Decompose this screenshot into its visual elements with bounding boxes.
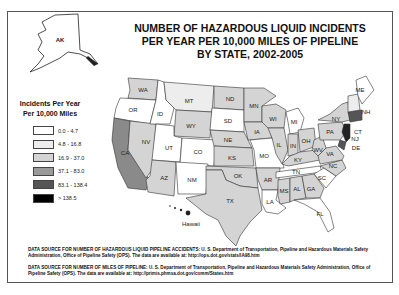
state-label-de: DE [352, 145, 360, 151]
state-label-az: AZ [160, 175, 168, 181]
state-label-fl: FL [316, 211, 324, 217]
state-label-oh: OH [302, 138, 311, 144]
state-label-or: OR [129, 107, 139, 113]
state-fl[interactable] [294, 198, 334, 232]
state-label-ga: GA [307, 186, 316, 192]
hawaii-label: Hawaii [182, 221, 200, 227]
legend-swatch [33, 126, 54, 135]
legend-swatch [33, 153, 54, 162]
legend-item: 0.0 - 4.7 [33, 124, 87, 138]
source-incidents: DATA SOURCE FOR NUMBER OF HAZARDOUS LIQU… [28, 247, 378, 259]
state-label-il: IL [276, 142, 282, 148]
state-label-mn: MN [249, 103, 258, 109]
source-miles: DATA SOURCE FOR NUMBER OF MILES OF PIPEL… [28, 265, 378, 277]
state-label-wv: WV [313, 147, 323, 153]
legend-title-line-2: Per 10,000 Miles [10, 109, 90, 119]
alaska-inset: AK [30, 14, 98, 72]
legend-item: > 138.5 [33, 192, 87, 206]
legend-label: 37.1 - 83.0 [58, 168, 84, 174]
state-label-ca: CA [121, 150, 129, 156]
state-label-mi: MI [291, 119, 298, 125]
state-label-sc: SC [318, 175, 327, 181]
state-label-nd: ND [226, 96, 235, 102]
legend-swatch [33, 180, 54, 189]
state-label-co: CO [194, 149, 203, 155]
state-label-ar: AR [264, 177, 273, 183]
state-nj[interactable] [342, 124, 350, 142]
legend-label: 0.0 - 4.7 [58, 128, 78, 134]
state-label-nv: NV [142, 139, 150, 145]
state-label-ut: UT [165, 145, 173, 151]
legend-label: 4.8 - 16.8 [58, 141, 81, 147]
state-label-ak: AK [56, 37, 65, 43]
legend-label: 16.9 - 37.0 [58, 155, 84, 161]
state-label-ks: KS [228, 155, 236, 161]
state-label-ia: IA [254, 129, 260, 135]
state-label-me: ME [356, 87, 365, 93]
legend-label: 83.1 - 138.4 [58, 182, 87, 188]
state-label-tn: TN [292, 169, 300, 175]
title-line-3: BY STATE, 2002-2005 [110, 48, 390, 61]
legend-label: > 138.5 [58, 195, 77, 201]
state-label-ky: KY [294, 157, 302, 163]
legend-swatch [33, 140, 54, 149]
title-line-2: PER YEAR PER 10,000 MILES OF PIPELINE [110, 35, 390, 48]
state-label-mo: MO [259, 153, 269, 159]
state-label-wy: WY [186, 123, 196, 129]
state-label-nm: NM [187, 177, 196, 183]
state-label-nc: NC [329, 163, 338, 169]
legend: 0.0 - 4.7 4.8 - 16.8 16.9 - 37.0 37.1 - … [33, 124, 87, 205]
state-label-nj: NJ [351, 136, 358, 142]
state-label-mt: MT [185, 98, 194, 104]
legend-title-line-1: Incidents Per Year [10, 99, 90, 109]
state-label-wa: WA [138, 87, 147, 93]
state-label-in: IN [290, 143, 296, 149]
state-label-ms: MS [280, 188, 289, 194]
state-label-ok: OK [234, 173, 243, 179]
title-line-1: NUMBER OF HAZARDOUS LIQUID INCIDENTS [110, 22, 390, 35]
hawaii-inset: Hawaii [169, 205, 200, 227]
state-label-ny: NY [332, 116, 340, 122]
legend-swatch [33, 194, 54, 203]
legend-swatch [33, 167, 54, 176]
state-label-tx: TX [226, 198, 234, 204]
state-label-pa: PA [326, 129, 334, 135]
state-label-la: LA [266, 199, 273, 205]
legend-title: Incidents Per Year Per 10,000 Miles [10, 99, 90, 119]
state-label-nh: NH [362, 109, 371, 115]
state-label-id: ID [157, 111, 164, 117]
state-label-wi: WI [269, 116, 277, 122]
map-title: NUMBER OF HAZARDOUS LIQUID INCIDENTS PER… [110, 22, 390, 61]
state-label-va: VA [326, 151, 334, 157]
state-label-sd: SD [224, 118, 233, 124]
state-label-al: AL [293, 186, 301, 192]
state-de[interactable] [338, 140, 346, 150]
legend-item: 4.8 - 16.8 [33, 138, 87, 152]
legend-item: 83.1 - 138.4 [33, 178, 87, 192]
legend-item: 16.9 - 37.0 [33, 151, 87, 165]
state-label-ne: NE [224, 137, 232, 143]
state-label-ct: CT [354, 129, 362, 135]
legend-item: 37.1 - 83.0 [33, 165, 87, 179]
